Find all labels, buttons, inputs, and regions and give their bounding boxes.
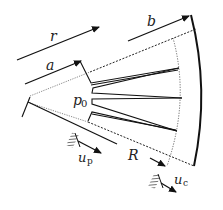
label-a: a (46, 57, 54, 73)
apex-tick (22, 97, 30, 117)
label-r: r (50, 28, 58, 44)
label-b: b (147, 13, 156, 29)
radial-arrow-a: a (25, 57, 81, 84)
dotted-boundary-arc (167, 38, 180, 166)
label-up-subscript: p (87, 156, 93, 166)
label-uc-subscript: c (183, 178, 188, 188)
displacement-arrow-up: u p (66, 132, 101, 166)
label-R: R (127, 147, 139, 163)
wedge-diagram: r a b R p 0 u p u c (0, 0, 223, 210)
hatch-support-icon (66, 132, 78, 148)
displacement-arrow-uc: u c (148, 172, 188, 192)
support-edge (158, 174, 163, 188)
label-up: u (78, 150, 86, 165)
radial-arrow-r: r (17, 27, 99, 60)
label-uc: u (174, 172, 182, 187)
inner-pressure-label: p 0 (73, 92, 87, 109)
cavity-and-cracks (80, 61, 182, 131)
label-p-subscript: 0 (81, 98, 87, 109)
radial-arrow-b: b (128, 13, 189, 41)
radial-arrow-R: R (28, 102, 165, 166)
outer-boundary-arc (191, 15, 201, 166)
lower-dotted-edge-outer (88, 122, 194, 166)
